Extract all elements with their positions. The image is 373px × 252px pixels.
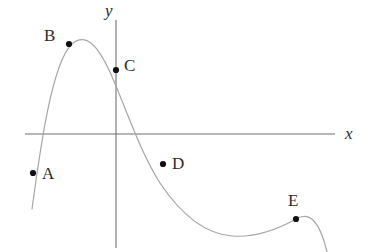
point-markers-group [30, 41, 299, 222]
data-point-d [160, 161, 166, 167]
y-axis-label: y [105, 2, 113, 19]
point-label-d: D [172, 155, 184, 172]
point-label-b: B [44, 27, 55, 44]
graph-figure: x y ABCDE [0, 0, 373, 252]
point-label-e: E [288, 192, 298, 209]
point-label-a: A [42, 165, 54, 182]
data-point-e [293, 216, 299, 222]
data-point-c [113, 67, 119, 73]
axes-group [25, 20, 335, 248]
point-label-c: C [124, 57, 135, 74]
curve-group [32, 40, 327, 252]
data-point-b [66, 41, 72, 47]
data-point-a [30, 170, 36, 176]
x-axis-label: x [345, 125, 353, 142]
plot-canvas [0, 0, 373, 252]
function-curve [32, 40, 327, 252]
